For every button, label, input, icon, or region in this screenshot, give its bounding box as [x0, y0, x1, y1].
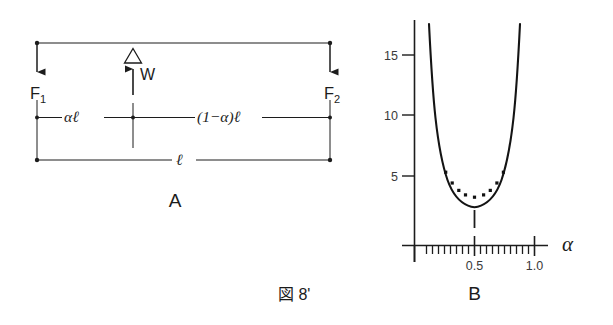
y-tick-10: 10 — [384, 109, 414, 123]
label-total-l: ℓ — [176, 151, 183, 168]
extension-lines — [37, 100, 330, 162]
label-w: W — [140, 66, 156, 83]
x-tick-label-0-5: 0.5 — [466, 259, 483, 273]
x-tick-label-1-0: 1.0 — [526, 259, 543, 273]
panel-b-chart: 15 10 5 — [380, 0, 613, 325]
y-tick-label-10: 10 — [384, 109, 398, 123]
dimension-line-total — [35, 158, 332, 162]
data-point-markers — [444, 171, 505, 199]
y-tick-label-15: 15 — [384, 49, 398, 63]
x-axis-label-alpha: α — [562, 232, 574, 256]
panel-b-letter: B — [468, 283, 481, 304]
label-f2: F2 — [324, 84, 340, 105]
label-alpha-l: αℓ — [64, 108, 79, 125]
x-minor-ticks — [427, 246, 529, 255]
y-tick-5: 5 — [391, 170, 414, 184]
y-tick-label-5: 5 — [391, 170, 398, 184]
beam-line — [35, 41, 332, 45]
dimension-line-alpha — [35, 116, 135, 120]
figure-caption: 図 8' — [278, 281, 310, 305]
figure-caption-text: 図 8' — [278, 286, 310, 303]
figure-root: F1 F2 W αℓ — [0, 0, 613, 325]
x-major-tick-1-0: 1.0 — [526, 236, 543, 273]
triangle-fulcrum-icon — [125, 49, 142, 64]
label-one-minus-alpha-l: (1−α)ℓ — [197, 108, 241, 126]
curve-f-of-alpha — [429, 24, 520, 207]
panel-a-diagram: F1 F2 W αℓ — [0, 0, 380, 260]
label-f1: F1 — [30, 84, 46, 105]
x-major-tick-0-5: 0.5 — [466, 236, 483, 273]
y-tick-15: 15 — [384, 49, 414, 63]
panel-a-letter: A — [169, 190, 182, 211]
